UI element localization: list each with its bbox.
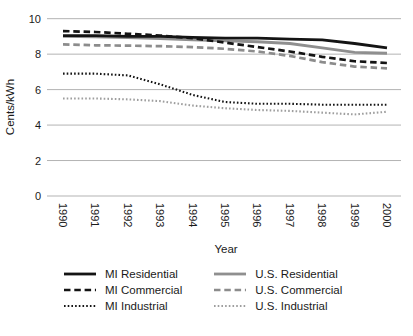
x-tick-label: 1994 (187, 203, 199, 227)
x-tick-label: 2000 (381, 203, 393, 227)
y-tick-label: 2 (35, 155, 41, 167)
x-tick-label: 1992 (122, 203, 134, 227)
x-tick-label: 1993 (154, 203, 166, 227)
legend-line-sample-dashed (64, 286, 96, 294)
legend-line-sample-dashed (214, 286, 246, 294)
series-line-u-s-industrial (63, 98, 387, 114)
legend-item: U.S. Commercial (214, 284, 342, 296)
x-tick-label: 1998 (316, 203, 328, 227)
series-line-u-s-commercial (63, 44, 387, 68)
y-axis-title: Cents/kWh (4, 79, 16, 135)
data-series-lines (63, 31, 387, 114)
legend-line-sample-solid (214, 270, 246, 278)
x-tick-label: 1995 (219, 203, 231, 227)
y-tick-label: 6 (35, 84, 41, 96)
line-chart-canvas: 0246810 19901991199219931994199519961997… (0, 0, 413, 262)
electricity-price-chart: 0246810 19901991199219931994199519961997… (0, 0, 413, 336)
y-tick-label: 0 (35, 190, 41, 202)
legend-line-sample-solid (64, 270, 96, 278)
legend-label: U.S. Commercial (255, 284, 342, 296)
legend-line-sample-dotted (64, 302, 96, 310)
legend-item: MI Residential (64, 268, 182, 280)
y-tick-label: 10 (29, 13, 41, 25)
legend-item: MI Commercial (64, 284, 182, 296)
legend-label: MI Industrial (105, 300, 168, 312)
legend-item: U.S. Industrial (214, 300, 342, 312)
y-tick-labels: 0246810 (29, 13, 41, 202)
legend-label: MI Commercial (105, 284, 182, 296)
x-tick-label: 1997 (284, 203, 296, 227)
legend-label: MI Residential (105, 268, 178, 280)
x-tick-label: 1990 (57, 203, 69, 227)
legend-line-sample-dotted (214, 302, 246, 310)
x-tick-labels: 1990199119921993199419951996199719981999… (57, 203, 393, 227)
legend-item: MI Industrial (64, 300, 182, 312)
y-tick-label: 8 (35, 48, 41, 60)
legend-label: U.S. Industrial (255, 300, 327, 312)
legend-label: U.S. Residential (255, 268, 337, 280)
x-tick-label: 1999 (349, 203, 361, 227)
x-tick-label: 1991 (89, 203, 101, 227)
chart-legend: MI ResidentialMI CommercialMI Industrial… (64, 268, 342, 312)
legend-item: U.S. Residential (214, 268, 342, 280)
y-tick-label: 4 (35, 119, 41, 131)
x-axis-title: Year (214, 243, 237, 255)
x-tick-label: 1996 (251, 203, 263, 227)
